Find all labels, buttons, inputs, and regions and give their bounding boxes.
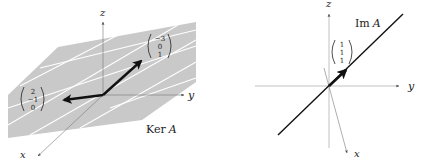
y-axis-label: y (187, 89, 195, 102)
v2-entry-1: 2 (31, 88, 35, 96)
v1-entry-2: 1 (340, 49, 344, 57)
v2-entry-2: −1 (28, 96, 38, 104)
image-figure: z y x 1 1 1 ImA (255, 0, 415, 159)
x-axis-label: x (20, 149, 26, 160)
v1-entry-3: 1 (158, 51, 162, 59)
vector-arrow-v1 (329, 70, 346, 86)
kernel-plane (8, 22, 196, 138)
kernel-label: KerA (146, 123, 177, 136)
v1-entry-2: 0 (158, 43, 162, 51)
v2-entry-3: 0 (31, 104, 35, 112)
v1-entry-1: 1 (340, 41, 344, 49)
y-axis-label: y (407, 80, 415, 93)
v1-entry-3: 1 (340, 57, 344, 65)
x-axis-label: x (354, 148, 360, 159)
z-axis-label: z (325, 0, 332, 9)
v1-entry-1: −3 (155, 35, 165, 43)
vector-label-v1: 1 1 1 (332, 40, 352, 65)
z-axis-label: z (99, 7, 106, 18)
kernel-figure: z y x −3 0 1 2 −1 0 KerA (8, 7, 196, 160)
image-label: ImA (355, 17, 381, 30)
